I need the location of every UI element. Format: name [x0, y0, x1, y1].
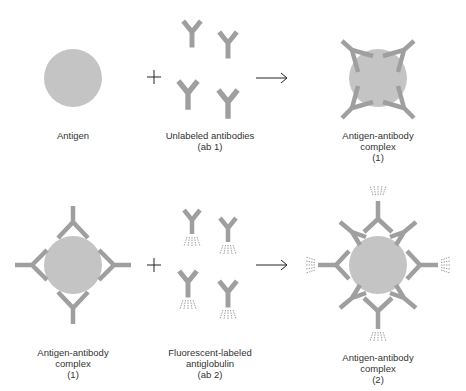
complex-2	[306, 186, 450, 341]
complex-1-label-bottom: Antigen-antibody complex (1)	[18, 347, 128, 380]
antigen	[44, 49, 102, 107]
fluorescent-antiglobulin-label: Fluorescent-labeled antiglobulin (ab 2)	[150, 347, 270, 380]
plus-icon-2	[147, 258, 161, 272]
complex-1-bottom	[15, 206, 131, 324]
plus-icon	[147, 70, 161, 84]
unlabeled-antibodies-label: Unlabeled antibodies (ab 1)	[155, 130, 265, 152]
complex-1-label-top: Antigen-antibody complex (1)	[323, 130, 433, 163]
complex-2-label: Antigen-antibody complex (2)	[323, 352, 433, 385]
arrow-icon	[256, 73, 287, 83]
unlabeled-antibodies	[178, 21, 237, 119]
fluorescent-antiglobulin	[179, 210, 237, 319]
antigen-label: Antigen	[28, 130, 118, 141]
immunofluorescence-diagram	[0, 0, 466, 391]
complex-1-top	[342, 41, 414, 118]
arrow-icon-2	[256, 260, 287, 270]
